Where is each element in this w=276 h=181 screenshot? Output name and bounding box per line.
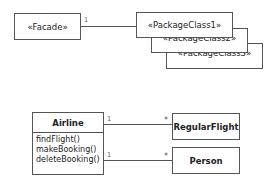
person-class-name: Person [189, 156, 222, 166]
package-class-1-box: «PackageClass1» [136, 12, 233, 38]
airline-operations: findFlight() makeBooking() deleteBooking… [33, 133, 103, 167]
regularflight-class-box: RegularFlight [172, 113, 240, 140]
operation-delete-booking: deleteBooking() [36, 155, 100, 165]
operation-make-booking: makeBooking() [36, 145, 100, 155]
airline-regularflight-line [104, 124, 172, 125]
airline-person-line [104, 160, 172, 161]
airline-class-name: Airline [33, 113, 103, 133]
airline-regularflight-source-multiplicity: 1 [107, 116, 111, 123]
facade-class-box: «Facade» [14, 13, 81, 40]
airline-class-box: Airline findFlight() makeBooking() delet… [32, 112, 104, 175]
airline-regularflight-target-multiplicity: * [164, 117, 168, 125]
package-class-1-label: «PackageClass1» [148, 20, 221, 30]
facade-multiplicity: 1 [84, 17, 88, 24]
facade-association-line [81, 26, 136, 27]
airline-person-target-multiplicity: * [164, 153, 168, 161]
person-class-box: Person [172, 147, 240, 174]
airline-person-source-multiplicity: 1 [107, 152, 111, 159]
facade-class-label: «Facade» [27, 22, 67, 32]
regularflight-class-name: RegularFlight [173, 122, 238, 132]
operation-find-flight: findFlight() [36, 135, 100, 145]
